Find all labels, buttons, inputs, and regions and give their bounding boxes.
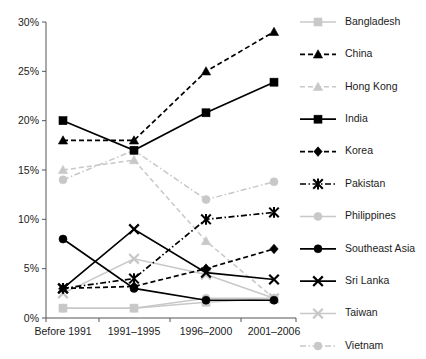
series-india [59, 78, 278, 154]
chart-canvas: 0%5%10%15%20%25%30% Before 19911991–1995… [0, 0, 426, 359]
y-axis-tick-label: 5% [24, 262, 39, 274]
legend-marker [313, 50, 322, 58]
data-point [129, 156, 138, 164]
data-point [130, 304, 138, 312]
data-point [270, 178, 278, 186]
legend-item-pakistan[interactable]: Pakistan [300, 177, 385, 190]
legend-item-vietnam[interactable]: Vietnam [300, 339, 384, 351]
y-axis: 0%5%10%15%20%25%30% [18, 16, 46, 324]
y-axis-tick-label: 0% [24, 312, 39, 324]
series-line [63, 82, 274, 150]
series-korea [59, 244, 278, 293]
legend-item-india[interactable]: India [300, 112, 368, 124]
legend-label: India [345, 112, 368, 124]
legend-label: Pakistan [345, 177, 385, 189]
data-point [270, 78, 278, 86]
y-axis-tick-label: 30% [18, 16, 39, 28]
legend-label: Hong Kong [345, 80, 398, 92]
series-line [63, 150, 274, 199]
legend-item-korea[interactable]: Korea [300, 144, 373, 156]
line-chart: 0%5%10%15%20%25%30% Before 19911991–1995… [0, 0, 426, 359]
plot-series-group [58, 27, 279, 312]
data-point [129, 224, 139, 234]
legend-label: Southeast Asia [345, 242, 415, 254]
series-line [63, 239, 274, 300]
legend-item-taiwan[interactable]: Taiwan [300, 306, 378, 318]
x-axis: Before 19911991–19951996–20002001–2006 [34, 318, 300, 337]
data-point [270, 244, 278, 254]
data-point [130, 146, 138, 154]
series-line [63, 249, 274, 288]
data-point [201, 236, 210, 244]
data-point [202, 196, 210, 204]
y-axis-tick-label: 25% [18, 65, 39, 77]
legend-item-philippines[interactable]: Philippines [300, 209, 396, 221]
legend-marker [314, 18, 322, 26]
series-vietnam [59, 146, 278, 203]
legend-marker [314, 115, 322, 123]
series-line [63, 32, 274, 141]
series-philippines [59, 294, 278, 312]
data-point [59, 235, 67, 243]
legend-marker [313, 82, 322, 90]
legend-item-southeast-asia[interactable]: Southeast Asia [300, 242, 415, 254]
legend-item-china[interactable]: China [300, 47, 373, 59]
legend-item-sri-lanka[interactable]: Sri Lanka [300, 274, 390, 286]
legend-item-hong-kong[interactable]: Hong Kong [300, 80, 398, 92]
legend-label: Taiwan [345, 306, 378, 318]
series-southeast-asia [59, 235, 278, 304]
data-point [59, 117, 67, 125]
y-axis-tick-label: 15% [18, 164, 39, 176]
data-point [59, 304, 67, 312]
legend-marker [314, 342, 322, 350]
series-china [58, 27, 278, 144]
y-axis-tick-label: 20% [18, 114, 39, 126]
series-line [63, 229, 274, 288]
legend-label: Sri Lanka [345, 274, 390, 286]
legend-marker [314, 147, 322, 157]
legend-label: Korea [345, 144, 373, 156]
legend-label: Philippines [345, 209, 396, 221]
data-point [130, 284, 138, 292]
data-point [270, 296, 278, 304]
x-axis-tick-label: 1996–2000 [180, 325, 233, 337]
data-point [202, 296, 210, 304]
y-axis-tick-label: 10% [18, 213, 39, 225]
data-point [269, 27, 278, 35]
data-point [201, 67, 210, 75]
x-axis-tick-label: 2001–2006 [248, 325, 301, 337]
legend-marker [314, 245, 322, 253]
legend-marker [314, 212, 322, 220]
legend-item-bangladesh[interactable]: Bangladesh [300, 15, 401, 27]
x-axis-tick-label: Before 1991 [34, 325, 91, 337]
legend: BangladeshChinaHong KongIndiaKoreaPakist… [300, 15, 415, 351]
legend-label: China [345, 47, 373, 59]
legend-label: Vietnam [345, 339, 384, 351]
data-point [202, 109, 210, 117]
x-axis-tick-label: 1991–1995 [108, 325, 161, 337]
legend-label: Bangladesh [345, 15, 401, 27]
data-point [59, 176, 67, 184]
